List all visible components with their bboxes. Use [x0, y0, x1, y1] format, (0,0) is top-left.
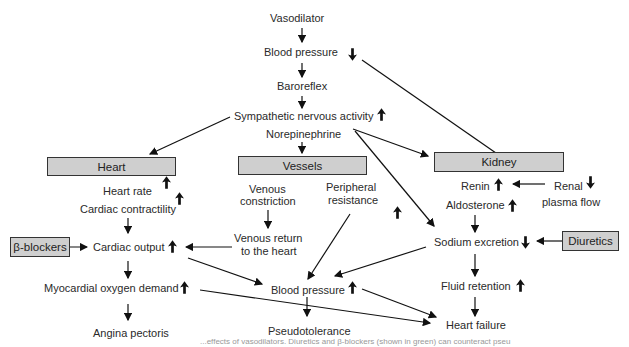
node-venous-constriction-2: constriction [240, 195, 296, 208]
box-beta-blockers: β-blockers [10, 237, 70, 257]
node-norepinephrine: Norepinephrine [266, 128, 341, 141]
node-cardiac-output: Cardiac output [93, 241, 165, 254]
node-renin: Renin [461, 180, 490, 193]
node-heart-rate: Heart rate [103, 185, 152, 198]
node-fluid-retention: Fluid retention [441, 280, 511, 293]
box-heart: Heart [47, 157, 176, 176]
node-cardiac-contractility: Cardiac contractility [80, 203, 176, 216]
node-blood-pressure-mid: Blood pressure [271, 284, 345, 297]
node-vasodilator: Vasodilator [270, 12, 324, 25]
node-aldosterone: Aldosterone [446, 199, 505, 212]
node-myocardial-oxygen-demand: Myocardial oxygen demand [44, 282, 179, 295]
node-venous-return-2: to the heart [241, 245, 297, 258]
node-angina-pectoris: Angina pectoris [93, 327, 169, 340]
node-baroreflex: Baroreflex [277, 80, 327, 93]
node-peripheral-1: Peripheral [326, 181, 376, 194]
node-blood-pressure-top: Blood pressure [264, 46, 338, 59]
figure-caption: ...effects of vasodilators. Diuretics an… [200, 337, 510, 346]
node-sodium-excretion: Sodium excretion [434, 236, 519, 249]
box-kidney: Kidney [434, 152, 564, 172]
node-peripheral-2: resistance [328, 194, 378, 207]
box-vessels: Vessels [238, 156, 367, 175]
box-diuretics: Diuretics [562, 231, 619, 251]
node-venous-return-1: Venous return [234, 232, 303, 245]
node-renal-2: plasma flow [542, 196, 600, 209]
node-sympathetic-activity: Sympathetic nervous activity [234, 110, 373, 123]
node-heart-failure: Heart failure [446, 319, 506, 332]
node-renal-1: Renal [554, 180, 583, 193]
